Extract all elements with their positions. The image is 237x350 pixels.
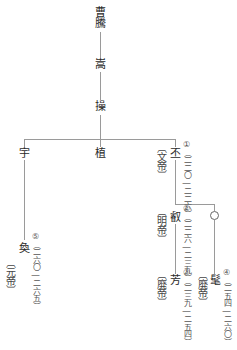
node-huan-title: 〔元帝〕 — [4, 258, 14, 294]
node-song: 嵩 — [94, 58, 105, 69]
node-mao-reign: ④（二五四―二六〇） — [222, 268, 230, 345]
edge-cao-children — [100, 115, 101, 139]
edge-pi-down — [175, 160, 176, 204]
edge-to-zhi — [100, 139, 101, 147]
edge-rui-fang — [175, 224, 176, 274]
node-pi-title: 〔文帝〕 — [155, 143, 165, 179]
node-caoteng: 曹騰 — [94, 6, 105, 28]
edge-to-yu — [24, 139, 25, 147]
node-cao: 操 — [94, 100, 105, 111]
node-rui-title: 〔明帝〕 — [155, 207, 165, 243]
node-zhi: 植 — [94, 147, 105, 158]
node-mao-title: 〔廃帝〕 — [196, 270, 206, 306]
node-fang-title: 〔廃帝〕 — [155, 270, 165, 306]
node-huan-reign: ⑤（二六〇―二六五） — [31, 232, 39, 309]
node-unknown — [210, 211, 219, 220]
node-pi: 丕 — [169, 147, 180, 158]
node-rui: 叡 — [169, 211, 180, 222]
edge-unknown-mao — [214, 220, 215, 274]
node-fang: 芳 — [169, 274, 180, 285]
node-fang-reign: ③（二三九―二五四） — [182, 268, 190, 345]
edge-pi-children-bar — [175, 204, 215, 205]
edge-to-pi — [175, 139, 176, 147]
edge-caoteng-song — [100, 32, 101, 58]
node-mao: 髦 — [209, 274, 220, 285]
node-huan: 奐 — [18, 242, 29, 253]
node-yu: 宇 — [18, 147, 29, 158]
edge-to-unknown — [214, 204, 215, 211]
edge-song-cao — [100, 72, 101, 100]
edge-yu-huan — [24, 160, 25, 240]
